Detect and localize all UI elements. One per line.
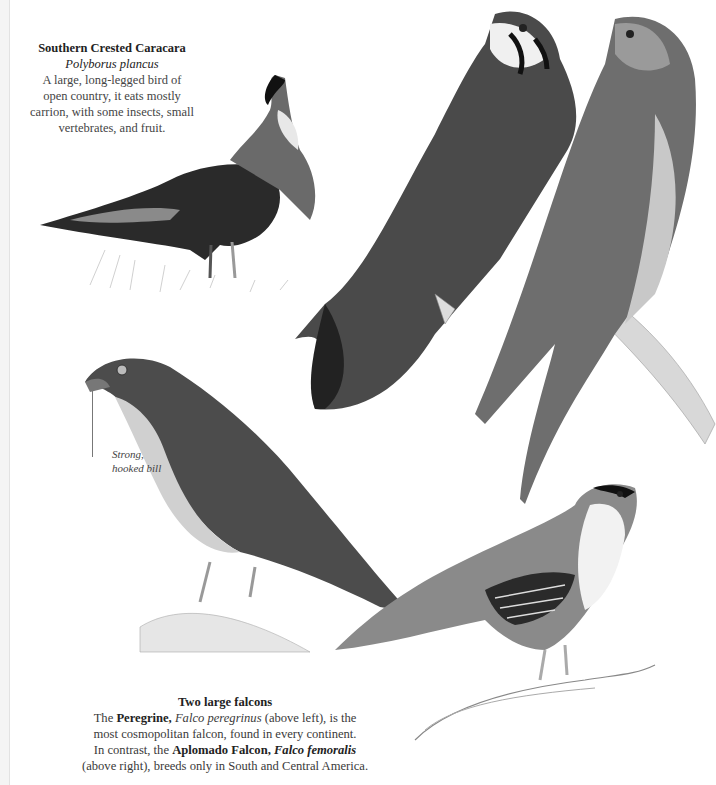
falcons-title: Two large falcons [70, 694, 380, 710]
falcons-line-1-text: The [94, 711, 117, 725]
caracara-title: Southern Crested Caracara [24, 40, 200, 56]
peregrine-scientific-name: Falco peregrinus [175, 711, 262, 725]
aplomado-name: Aplomado Falcon, [172, 743, 274, 757]
falcons-line-3-text: In contrast, the [94, 743, 172, 757]
falcons-caption: Two large falcons The Peregrine, Falco p… [70, 694, 380, 774]
aplomado-falcon-illustration [335, 480, 655, 750]
falcons-line-1: The Peregrine, Falco peregrinus (above l… [70, 710, 380, 726]
aplomado-scientific-name: Falco femoralis [274, 743, 356, 757]
hooked-bill-annotation: Strong, hooked bill [112, 447, 161, 475]
falcons-line-1-end: (above left), is the [262, 711, 357, 725]
annotation-line-2: hooked bill [112, 461, 161, 475]
falcons-line-2: most cosmopolitan falcon, found in every… [70, 726, 380, 742]
page-edge [0, 0, 10, 785]
annotation-line-1: Strong, [112, 447, 161, 461]
peregrine-name: Peregrine, [116, 711, 175, 725]
falcons-line-4: (above right), breeds only in South and … [70, 758, 380, 774]
annotation-leader-line [92, 391, 93, 457]
falcons-line-3: In contrast, the Aplomado Falcon, Falco … [70, 742, 380, 758]
